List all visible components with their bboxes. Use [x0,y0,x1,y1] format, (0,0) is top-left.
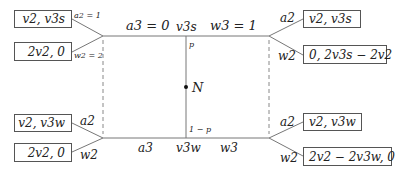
label-top-left-a2: a2 = 1 [74,12,101,20]
label-bottom-left-w2: w2 [80,149,98,161]
label-bottom-left-a2: a2 [80,115,95,127]
payoff-box-bottom-right-a: v2, v3w [303,113,362,131]
label-bottom-right-a2: a2 [280,116,295,128]
label-bottom-right-w2: w2 [280,152,298,164]
label-bottom-w3: w3 [220,142,238,154]
label-top-right-a2: a2 [280,12,295,24]
payoff-box-bottom-left-a: v2, v3w [14,114,72,132]
payoff-box-top-right-a: v2, v3s [303,10,361,28]
payoff-box-top-left-w: 2v2, 0 [14,42,72,61]
label-prob-1-p: 1 − p [189,126,211,134]
label-top-left-w2: w2 = 2 [74,52,103,60]
nature-node-dot [184,85,188,89]
label-prob-p: p [189,41,194,49]
label-top-w3: w3 = 1 [210,19,257,32]
payoff-box-bottom-left-w: 2v2, 0 [14,143,72,162]
label-top-a3: a3 = 0 [126,19,169,32]
label-node-v3s: v3s [176,21,197,33]
label-top-right-w2: w2 [278,50,296,62]
label-bottom-a3: a3 [138,142,153,154]
label-node-v3w: v3w [176,142,201,154]
payoff-box-top-right-w: 0, 2v3s − 2v2 [303,45,387,64]
label-nature-N: N [192,81,203,94]
payoff-box-top-left-a: v2, v3s [14,10,72,28]
payoff-box-bottom-right-w: 2v2 − 2v3w, 0 [303,147,392,166]
